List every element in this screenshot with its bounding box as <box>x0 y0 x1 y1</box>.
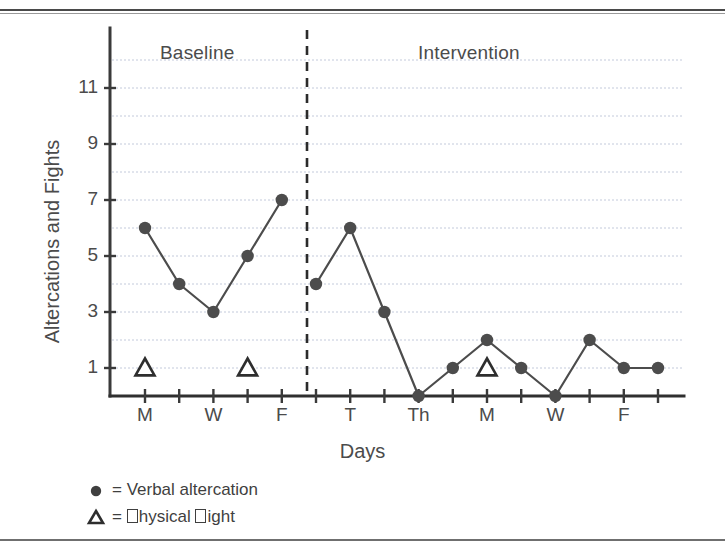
legend-item-verbal-altercation: = Verbal altercation <box>86 476 258 503</box>
y-axis-title: Altercations and Fights <box>41 92 64 392</box>
missing-glyph-box <box>195 509 206 523</box>
legend-label-verbal-altercation: = Verbal altercation <box>112 480 258 500</box>
data-point-marker <box>241 250 253 262</box>
x-axis-tick-label: F <box>262 404 302 426</box>
data-point-marker <box>173 278 185 290</box>
gridlines-group <box>112 60 684 368</box>
physical-fight-marker <box>238 359 257 376</box>
physical-fight-marker <box>136 359 155 376</box>
data-series-markers <box>139 194 664 402</box>
y-axis-tick-label: 5 <box>64 244 98 266</box>
data-point-marker <box>618 362 630 374</box>
data-point-marker <box>447 362 459 374</box>
data-point-marker <box>583 334 595 346</box>
phase-label-intervention: Intervention <box>418 42 520 64</box>
legend-label-physical-fight: = hysical ight <box>112 507 235 527</box>
data-point-marker <box>652 362 664 374</box>
phase-label-baseline: Baseline <box>160 42 234 64</box>
x-axis-tick-label: F <box>604 404 644 426</box>
y-axis-tick-label: 1 <box>64 356 98 378</box>
data-point-marker <box>276 194 288 206</box>
y-axis-tick-label: 11 <box>64 76 98 98</box>
y-axis-tick-label: 7 <box>64 188 98 210</box>
physical-fight-marker <box>478 359 497 376</box>
chart-legend: = Verbal altercation = hysical ight <box>86 476 258 530</box>
data-point-marker <box>412 390 424 402</box>
x-axis-tick-label: M <box>125 404 165 426</box>
data-point-marker <box>378 306 390 318</box>
x-axis-tick-label: W <box>193 404 233 426</box>
open-triangle-icon <box>86 507 112 527</box>
data-point-marker <box>481 334 493 346</box>
chart-plot <box>0 0 725 550</box>
x-axis-tick-label: Th <box>399 404 439 426</box>
data-point-marker <box>515 362 527 374</box>
missing-glyph-box <box>127 509 138 523</box>
data-point-marker <box>344 222 356 234</box>
x-axis-tick-label: T <box>330 404 370 426</box>
physical-fight-markers <box>136 359 497 376</box>
data-point-marker <box>310 278 322 290</box>
data-series-lines <box>145 200 658 396</box>
legend-item-physical-fight: = hysical ight <box>86 503 258 530</box>
x-axis-tick-label: M <box>467 404 507 426</box>
data-point-marker <box>139 222 151 234</box>
figure-container: Baseline Intervention 1357911 MWFTThMWF … <box>0 0 725 550</box>
data-point-marker <box>207 306 219 318</box>
x-axis-title: Days <box>0 440 725 463</box>
data-point-marker <box>549 390 561 402</box>
y-axis-tick-label: 3 <box>64 300 98 322</box>
filled-circle-icon <box>86 480 112 500</box>
x-axis-tick-label: W <box>535 404 575 426</box>
y-axis-tick-label: 9 <box>64 132 98 154</box>
